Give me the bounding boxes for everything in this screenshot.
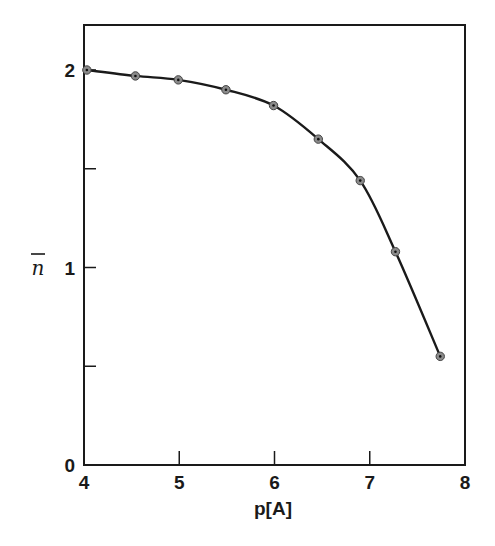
- data-curve: [87, 70, 440, 356]
- x-tick-label: 6: [269, 472, 280, 493]
- data-point-center: [177, 79, 180, 82]
- data-point-center: [225, 88, 228, 91]
- x-tick-label: 7: [364, 472, 375, 493]
- plot-border: [84, 25, 465, 465]
- plot-frame: [84, 25, 465, 465]
- x-axis-label: p[A]: [254, 498, 292, 519]
- chart: 45678012 p[A] n: [0, 0, 495, 546]
- data-point-center: [359, 179, 362, 182]
- data-point-center: [394, 250, 397, 253]
- y-axis-label: n: [31, 254, 45, 280]
- x-tick-label: 5: [174, 472, 185, 493]
- y-tick-label: 2: [64, 60, 75, 81]
- data-point-center: [439, 355, 442, 358]
- tick-labels: 45678012: [64, 60, 470, 493]
- data-point-center: [317, 138, 320, 141]
- x-tick-label: 4: [79, 472, 90, 493]
- data-point-center: [86, 69, 89, 72]
- y-tick-label: 0: [64, 455, 75, 476]
- data-point-center: [134, 75, 137, 78]
- y-tick-label: 1: [64, 258, 75, 279]
- data-point-center: [272, 104, 275, 107]
- x-tick-label: 8: [460, 472, 471, 493]
- data-markers: [83, 66, 445, 361]
- axis-ticks: [84, 70, 370, 465]
- y-axis-label-text: n: [32, 256, 45, 280]
